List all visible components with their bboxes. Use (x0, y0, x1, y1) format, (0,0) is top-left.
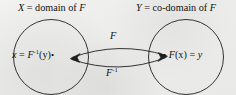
domain-element-argument: (y) (39, 49, 51, 60)
inverse-arrow-exponent: -1 (112, 66, 118, 73)
codomain-element-argument: (x) (175, 49, 187, 60)
codomain-text: co-domain of (153, 2, 210, 13)
codomain-element-variable: y (198, 49, 203, 60)
inverse-arrowhead-icon (70, 53, 80, 62)
inverse-arrow-curve (72, 58, 166, 68)
domain-element-label: x = F-1(y)• (12, 50, 54, 60)
inverse-arrow-label: F-1 (106, 68, 118, 78)
codomain-element-bullet: • (163, 50, 166, 60)
forward-arrow-symbol: F (110, 30, 116, 41)
codomain-header-label: Y = co-domain of F (136, 3, 216, 13)
forward-arrow-curve (72, 48, 166, 57)
codomain-element-equals: = (187, 49, 198, 60)
domain-equals: = (24, 2, 35, 13)
domain-header-label: X = domain of F (18, 3, 85, 13)
codomain-function: F (210, 2, 216, 13)
codomain-element-label: • F(x) = y (163, 50, 202, 60)
function-diagram: X = domain of F Y = co-domain of F x = F… (0, 0, 236, 95)
domain-element-bullet: • (51, 50, 54, 60)
domain-element-equals: = (17, 49, 28, 60)
codomain-equals: = (142, 2, 153, 13)
forward-arrow-label: F (110, 31, 116, 41)
domain-text: domain of (35, 2, 79, 13)
domain-function: F (79, 2, 85, 13)
